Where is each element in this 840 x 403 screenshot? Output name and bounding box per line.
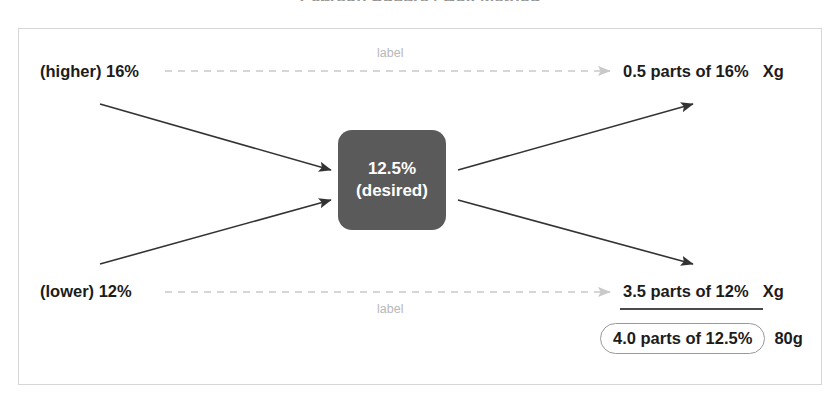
dashed-connector-label-bottom: label [377,302,403,316]
output-unit-parts-16: Xg [763,62,784,81]
center-node-value: 12.5% [368,158,416,180]
output-amount-parts-12: 3.5 parts of 12% [623,282,749,301]
output-row-parts-16: 0.5 parts of 16% Xg [623,62,784,81]
center-node-caption: (desired) [356,180,428,202]
output-row-parts-12: 3.5 parts of 12% Xg [623,282,784,301]
output-unit-parts-12: Xg [763,282,784,301]
title-remnant: Pearson Square / Box Method [0,0,840,1]
total-unit: 80g [774,329,802,348]
input-label-lower: (lower) 12% [40,282,132,301]
total-amount: 4.0 parts of 12.5% [600,323,765,354]
diagram-canvas: Pearson Square / Box Method (higher) 16%… [0,0,840,403]
output-amount-parts-16: 0.5 parts of 16% [623,62,749,81]
total-row: 4.0 parts of 12.5% 80g [600,323,803,354]
input-label-higher: (higher) 16% [40,62,139,81]
center-node: 12.5% (desired) [338,130,446,230]
sum-underline [620,308,763,310]
dashed-connector-label-top: label [377,46,403,60]
